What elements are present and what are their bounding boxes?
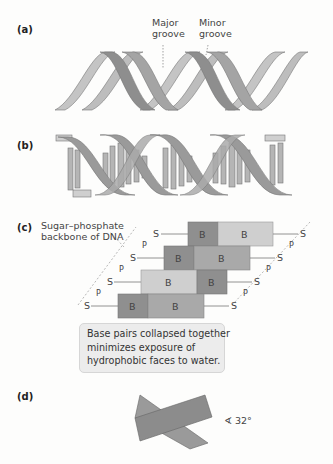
base-label: B [129, 301, 136, 312]
panel-d-label: (d) [17, 391, 33, 402]
phosphate-label: P [266, 264, 271, 275]
base-pair-note: Base pairs collapsed together minimizes … [79, 323, 225, 373]
base-label: B [172, 301, 179, 312]
helix-ribbon-a [55, 45, 308, 110]
sugar-label: S [300, 228, 306, 239]
crossed-base-planes-d [135, 395, 212, 449]
base-label: B [165, 277, 172, 288]
sugar-label: S [130, 252, 136, 263]
sugar-label: S [254, 276, 260, 287]
sugar-label: S [107, 276, 113, 287]
base-label: B [199, 229, 206, 240]
base-label: B [241, 229, 248, 240]
panel-b-label: (b) [17, 140, 33, 151]
helix-with-bases-b [56, 135, 292, 197]
phosphate-label: P [119, 264, 124, 275]
phosphate-label: P [289, 240, 294, 251]
sugar-label: S [277, 252, 283, 263]
base-label: B [218, 253, 225, 264]
base-label: B [208, 277, 215, 288]
base-label: B [175, 253, 182, 264]
backbone-label: Sugar–phosphate backbone of DNA [41, 220, 124, 242]
phosphate-label: P [96, 288, 101, 299]
angle-label: ∢ 32° [224, 415, 252, 426]
panel-c-label: (c) [17, 222, 32, 233]
phosphate-label: P [142, 240, 147, 251]
sugar-label: S [84, 300, 90, 311]
phosphate-label: P [243, 288, 248, 299]
sugar-label: S [231, 300, 237, 311]
sugar-label: S [153, 228, 159, 239]
